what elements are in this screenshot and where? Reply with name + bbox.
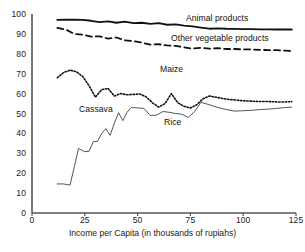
y-tick-label: 10 — [2, 188, 26, 198]
series-label-cassava: Cassava — [79, 104, 113, 114]
series-paths — [57, 20, 291, 186]
x-axis-title: Income per Capita (in thousands of rupia… — [0, 228, 305, 238]
series-label-rice: Rice — [164, 117, 181, 127]
series-line-cassava — [57, 70, 291, 108]
x-tick-label: 75 — [175, 215, 205, 225]
x-tick-label: 100 — [228, 215, 258, 225]
x-tick-label: 125 — [281, 215, 305, 225]
chart-container: 0102030405060708090100 0255075100125 Ani… — [0, 0, 305, 252]
y-tick-label: 70 — [2, 69, 26, 79]
series-label-animal-products: Animal products — [186, 13, 248, 23]
x-tick-label: 0 — [17, 215, 47, 225]
y-tick-label: 20 — [2, 168, 26, 178]
series-line-rice — [57, 102, 291, 185]
y-tick-label: 90 — [2, 29, 26, 39]
x-tick-label: 25 — [70, 215, 100, 225]
y-tick-label: 30 — [2, 148, 26, 158]
y-tick-label: 40 — [2, 128, 26, 138]
y-tick-label: 100 — [2, 9, 26, 19]
y-tick-label: 50 — [2, 109, 26, 119]
y-tick-label: 60 — [2, 89, 26, 99]
series-line-animal-products — [57, 20, 291, 30]
x-tick-label: 50 — [123, 215, 153, 225]
series-label-other-vegetable-products: Other vegetable products — [171, 33, 269, 43]
series-label-maize: Maize — [160, 64, 183, 74]
y-tick-label: 80 — [2, 49, 26, 59]
